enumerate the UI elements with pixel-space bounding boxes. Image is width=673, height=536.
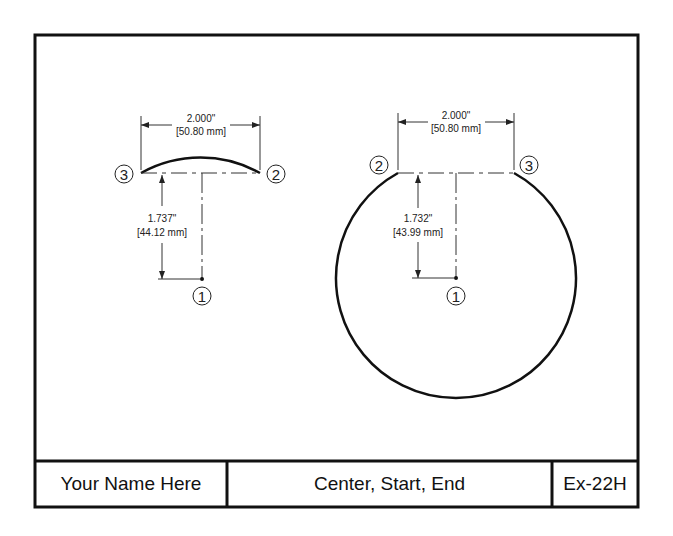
right-width-dim-in: 2.000" — [442, 110, 471, 121]
title-block-name: Your Name Here — [36, 461, 226, 507]
right-label-end: 3 — [525, 157, 533, 174]
left-height-dim-in: 1.737" — [148, 213, 177, 224]
right-height-dim-mm: [43.99 mm] — [393, 227, 443, 238]
right-center-point — [454, 276, 458, 280]
left-label-center: 1 — [198, 288, 206, 305]
right-label-center: 1 — [452, 288, 460, 305]
left-width-dim-mm: [50.80 mm] — [176, 126, 226, 137]
left-arc-figure: 2.000" [50.80 mm] 1.737" [44.12 mm] 3 2 … — [115, 113, 285, 305]
title-block-title: Center, Start, End — [228, 461, 551, 507]
title-block-exercise: Ex-22H — [553, 461, 637, 507]
left-center-point — [200, 277, 204, 281]
right-height-dim-in: 1.732" — [404, 213, 433, 224]
left-label-start: 2 — [272, 166, 280, 183]
right-width-dim-mm: [50.80 mm] — [431, 123, 481, 134]
right-label-start: 2 — [375, 157, 383, 174]
left-width-dim-in: 2.000" — [187, 113, 216, 124]
drawing-sheet: 2.000" [50.80 mm] 1.737" [44.12 mm] 3 2 … — [0, 0, 673, 536]
left-height-dim-mm: [44.12 mm] — [137, 227, 187, 238]
left-arc — [141, 158, 260, 173]
left-label-end: 3 — [120, 166, 128, 183]
right-arc-figure: 2.000" [50.80 mm] 1.732" [43.99 mm] 2 3 … — [336, 110, 576, 398]
